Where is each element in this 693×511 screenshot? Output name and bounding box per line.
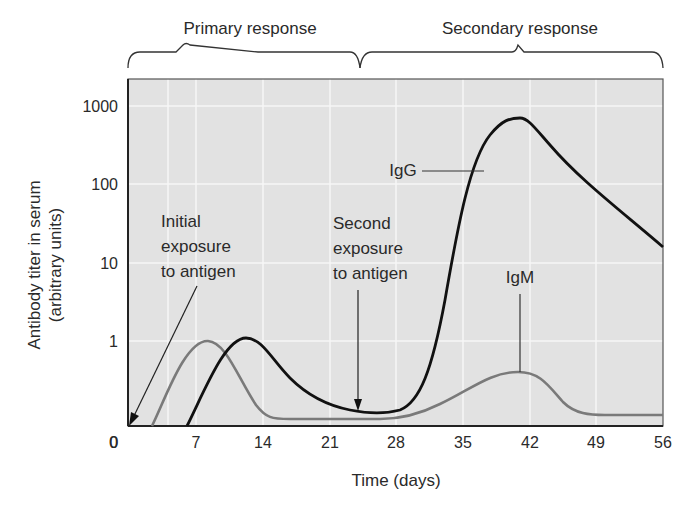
svg-text:42: 42	[521, 434, 539, 451]
svg-text:10: 10	[100, 255, 118, 272]
secondary-response-label: Secondary response	[442, 19, 598, 38]
svg-text:exposure: exposure	[161, 237, 231, 256]
primary-response-label: Primary response	[183, 19, 316, 38]
x-tick-labels: 0 7 14 21 28 35 42 49 56	[110, 434, 672, 451]
svg-text:7: 7	[192, 434, 201, 451]
y-tick-labels: 1000 100 10 1 0	[82, 98, 118, 451]
igm-label: IgM	[506, 268, 534, 287]
y-axis-label: Antibody titer in serum (arbitrary units…	[25, 180, 65, 349]
svg-text:1: 1	[109, 333, 118, 350]
x-axis-label: Time (days)	[351, 471, 440, 490]
svg-text:Second: Second	[333, 214, 391, 233]
svg-text:1000: 1000	[82, 98, 118, 115]
svg-text:100: 100	[91, 176, 118, 193]
svg-text:to antigen: to antigen	[161, 262, 236, 281]
svg-text:(arbitrary units): (arbitrary units)	[46, 208, 65, 322]
svg-text:to antigen: to antigen	[333, 264, 408, 283]
svg-text:exposure: exposure	[333, 239, 403, 258]
secondary-bracket	[360, 45, 663, 68]
svg-text:0: 0	[110, 434, 119, 451]
igg-label: IgG	[389, 161, 416, 180]
svg-text:Initial: Initial	[161, 212, 201, 231]
svg-text:Antibody titer in serum: Antibody titer in serum	[25, 180, 44, 349]
svg-text:35: 35	[454, 434, 472, 451]
antibody-response-chart: Primary response Secondary response 1000…	[0, 0, 693, 511]
response-brackets	[128, 44, 663, 69]
svg-text:49: 49	[587, 434, 605, 451]
primary-bracket	[128, 44, 360, 69]
svg-text:21: 21	[321, 434, 339, 451]
svg-text:28: 28	[387, 434, 405, 451]
svg-text:56: 56	[654, 434, 672, 451]
svg-text:14: 14	[254, 434, 272, 451]
